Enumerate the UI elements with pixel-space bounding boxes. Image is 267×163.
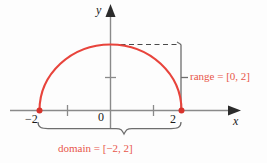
y-axis-label: y: [96, 4, 101, 16]
domain-brace: [38, 122, 181, 134]
domain-annotation-label: domain = [−2, 2]: [58, 143, 133, 154]
range-annotation-label: range = [0, 2]: [190, 71, 250, 82]
semicircle-domain-range-figure: y x 0 −2 2 range = [0, 2] domain = [−2, …: [0, 0, 267, 163]
endpoint-dot-right: [179, 108, 185, 114]
x-tick-label-neg2: −2: [25, 113, 38, 125]
x-axis-label: x: [233, 115, 238, 127]
y-axis-arrowhead: [106, 4, 116, 17]
x-tick-label-pos2: 2: [170, 113, 176, 125]
range-bracket-top-nub: [177, 42, 181, 45]
origin-label: 0: [98, 111, 104, 123]
